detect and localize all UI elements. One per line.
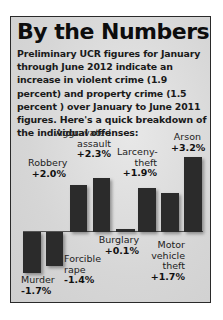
label-murder-value: -1.7% bbox=[21, 286, 55, 297]
label-arson-name: Arson bbox=[171, 132, 201, 143]
bar-larceny-theft bbox=[138, 188, 156, 232]
label-murder-name: Murder bbox=[21, 275, 55, 286]
label-burglary-name: Burglary bbox=[91, 235, 139, 246]
label-larceny-value: +1.9% bbox=[117, 168, 157, 179]
label-assault-name-line1: Aggravated bbox=[49, 128, 111, 139]
label-robbery-value: +2.0% bbox=[28, 169, 66, 180]
label-forcible-rape: Forcible rape -1.4% bbox=[64, 254, 101, 286]
bar-motor-vehicle-theft bbox=[161, 193, 179, 232]
bar-arson bbox=[184, 157, 202, 232]
label-mvt-name-line1: Motor bbox=[139, 240, 185, 251]
label-aggravated-assault: Aggravated assault +2.3% bbox=[49, 128, 111, 160]
bar-robbery bbox=[70, 185, 87, 232]
label-arson: Arson +3.2% bbox=[171, 132, 201, 153]
bar-chart: Murder -1.7% Forcible rape -1.4% Robbery… bbox=[11, 17, 210, 302]
label-burglary-value: +0.1% bbox=[91, 246, 139, 257]
label-mvt-name-line3: theft bbox=[139, 261, 185, 272]
label-murder: Murder -1.7% bbox=[21, 275, 55, 296]
bar-burglary bbox=[116, 229, 135, 232]
label-robbery: Robbery +2.0% bbox=[28, 158, 66, 179]
label-larceny-theft: Larceny- theft +1.9% bbox=[117, 147, 157, 179]
label-mvt-value: +1.7% bbox=[139, 272, 185, 283]
label-burglary: Burglary +0.1% bbox=[91, 235, 139, 256]
by-the-numbers-panel: By the Numbers Preliminary UCR figures f… bbox=[10, 16, 211, 303]
label-larceny-name-line1: Larceny- bbox=[117, 147, 157, 158]
label-robbery-name: Robbery bbox=[28, 158, 66, 169]
bar-forcible-rape bbox=[46, 232, 63, 266]
label-motor-vehicle-theft: Motor vehicle theft +1.7% bbox=[139, 240, 185, 282]
label-rape-value: -1.4% bbox=[64, 275, 101, 286]
bar-aggravated-assault bbox=[93, 178, 110, 232]
label-assault-value: +2.3% bbox=[49, 149, 111, 160]
bar-murder bbox=[23, 232, 41, 273]
label-arson-value: +3.2% bbox=[171, 143, 201, 154]
